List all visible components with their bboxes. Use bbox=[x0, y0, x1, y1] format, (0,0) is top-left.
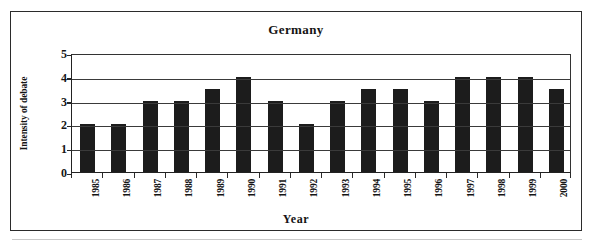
chart-title: Germany bbox=[11, 22, 581, 38]
x-axis-tick bbox=[477, 173, 478, 178]
x-axis-tick-label: 1987 bbox=[153, 179, 163, 197]
x-axis-tick-labels: 1985198619871988198919901991199219931994… bbox=[71, 179, 571, 213]
y-axis-tick bbox=[67, 78, 72, 80]
y-axis-tick-label: 1 bbox=[51, 143, 67, 155]
bar bbox=[80, 124, 95, 172]
x-axis-tick-label: 1988 bbox=[184, 179, 194, 197]
x-axis-tick-label: 1991 bbox=[278, 179, 288, 197]
x-axis-tick bbox=[165, 173, 166, 178]
bar bbox=[143, 101, 158, 172]
x-axis-tick bbox=[540, 173, 541, 178]
x-axis-tick bbox=[227, 173, 228, 178]
y-axis-tick-label: 2 bbox=[51, 119, 67, 131]
x-axis-tick bbox=[259, 173, 260, 178]
bar bbox=[549, 89, 564, 172]
x-axis-tick-label: 1992 bbox=[309, 179, 319, 197]
bar bbox=[299, 124, 314, 172]
y-axis-tick-label: 5 bbox=[51, 48, 67, 60]
x-axis-tick-label: 1989 bbox=[216, 179, 226, 197]
y-axis-title: Intensity of debate bbox=[19, 54, 33, 173]
x-axis-tick bbox=[196, 173, 197, 178]
gridline bbox=[72, 103, 570, 104]
bar bbox=[424, 101, 439, 172]
gridline bbox=[72, 150, 570, 151]
x-axis-tick-label: 1999 bbox=[528, 179, 538, 197]
y-axis-tick bbox=[67, 102, 72, 104]
y-axis-tick bbox=[67, 150, 72, 152]
bar bbox=[236, 77, 251, 172]
x-axis-tick-label: 2000 bbox=[559, 179, 569, 197]
gridline bbox=[72, 126, 570, 127]
y-axis-tick bbox=[67, 126, 72, 128]
x-axis-tick bbox=[509, 173, 510, 178]
x-axis-tick bbox=[290, 173, 291, 178]
x-axis-tick bbox=[102, 173, 103, 178]
y-axis-tick bbox=[67, 174, 72, 176]
x-axis-tick bbox=[384, 173, 385, 178]
x-axis-tick-label: 1985 bbox=[91, 179, 101, 197]
gridline bbox=[72, 79, 570, 80]
y-axis-tick-labels: 012345 bbox=[51, 54, 67, 173]
x-axis-tick bbox=[415, 173, 416, 178]
bar bbox=[330, 101, 345, 172]
y-axis-tick-label: 4 bbox=[51, 72, 67, 84]
x-axis-tick bbox=[321, 173, 322, 178]
bar bbox=[205, 89, 220, 172]
x-axis-tick-label: 1990 bbox=[247, 179, 257, 197]
x-axis-tick bbox=[352, 173, 353, 178]
x-axis-tick-label: 1995 bbox=[403, 179, 413, 197]
x-axis-tick-label: 1993 bbox=[341, 179, 351, 197]
x-axis-tick-label: 1996 bbox=[434, 179, 444, 197]
bar bbox=[268, 101, 283, 172]
plot-area bbox=[71, 54, 571, 173]
y-axis-tick-label: 0 bbox=[51, 167, 67, 179]
bar bbox=[361, 89, 376, 172]
x-axis-tick-label: 1997 bbox=[466, 179, 476, 197]
bar bbox=[111, 124, 126, 172]
bar bbox=[518, 77, 533, 172]
bar bbox=[393, 89, 408, 172]
x-axis-title: Year bbox=[11, 212, 581, 227]
x-axis-tick bbox=[134, 173, 135, 178]
x-axis-tick bbox=[570, 173, 571, 178]
x-axis-tick-label: 1986 bbox=[122, 179, 132, 197]
bar bbox=[174, 101, 189, 172]
figure-frame: Germany Intensity of debate 012345 19851… bbox=[10, 11, 582, 231]
y-axis-tick-label: 3 bbox=[51, 96, 67, 108]
x-axis-tick bbox=[446, 173, 447, 178]
x-axis-tick-label: 1994 bbox=[372, 179, 382, 197]
bar bbox=[486, 77, 501, 172]
y-axis-tick bbox=[67, 55, 72, 57]
page-horizontal-rule bbox=[12, 239, 582, 240]
bar bbox=[455, 77, 470, 172]
x-axis-tick-label: 1998 bbox=[497, 179, 507, 197]
